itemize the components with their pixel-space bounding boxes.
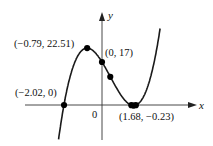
origin-label: 0 <box>92 109 97 120</box>
chart: x y 0 (−2.02, 0) (−0.79, 22.51) (0, 17) … <box>0 0 213 146</box>
data-point <box>133 102 139 108</box>
point-label-local-max: (−0.79, 22.51) <box>14 38 75 50</box>
x-axis-arrow-icon <box>188 102 197 108</box>
y-axis-label: y <box>107 9 113 21</box>
point-label-root: (−2.02, 0) <box>15 87 57 99</box>
x-axis-label: x <box>198 99 204 111</box>
data-point <box>84 45 90 51</box>
data-point <box>61 102 67 108</box>
y-axis-arrow-icon <box>99 12 105 21</box>
data-point <box>99 59 105 65</box>
point-label-local-min: (1.68, −0.23) <box>119 111 174 123</box>
data-point <box>107 74 113 80</box>
point-label-y-intercept: (0, 17) <box>105 47 133 59</box>
